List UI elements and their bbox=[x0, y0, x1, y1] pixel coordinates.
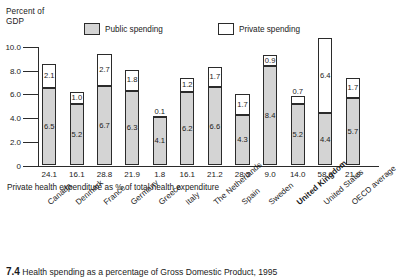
y-axis-spine bbox=[38, 47, 39, 166]
public-value-label: 6.5 bbox=[44, 123, 55, 131]
private-share-value: 28.8 bbox=[91, 170, 119, 179]
private-share-value: 16.1 bbox=[173, 170, 201, 179]
private-share-value: 21.2 bbox=[201, 170, 229, 179]
bar-group[interactable]: 2.16.5 bbox=[42, 64, 56, 166]
private-spending-segment[interactable]: 6.4 bbox=[318, 38, 332, 114]
public-spending-segment[interactable]: 4.3 bbox=[235, 115, 249, 166]
public-spending-segment[interactable]: 4.1 bbox=[153, 117, 167, 166]
x-axis-category-label: The Netherlands bbox=[212, 160, 264, 207]
public-value-label: 6.7 bbox=[99, 122, 110, 130]
private-share-value: 16.1 bbox=[63, 170, 91, 179]
private-share-value: 21.9 bbox=[118, 170, 146, 179]
public-value-label: 4.1 bbox=[154, 137, 165, 145]
private-value-label: 1.0 bbox=[72, 94, 83, 102]
bar-group[interactable]: 1.26.2 bbox=[180, 78, 194, 166]
private-spending-segment[interactable]: 0.7 bbox=[291, 96, 305, 104]
y-axis-tick-label: 0 bbox=[0, 161, 21, 170]
bar-group[interactable]: 0.75.2 bbox=[291, 96, 305, 166]
public-spending-segment[interactable]: 5.2 bbox=[291, 104, 305, 166]
private-spending-segment[interactable]: 1.7 bbox=[346, 78, 360, 98]
private-value-label: 1.7 bbox=[237, 101, 248, 109]
public-value-label: 5.7 bbox=[348, 128, 359, 136]
bar-group[interactable]: 2.76.7 bbox=[97, 54, 111, 165]
y-axis-tick-label: 2.0 bbox=[0, 137, 21, 146]
bar-group[interactable]: 0.14.1 bbox=[153, 116, 167, 166]
figure-number: 7.4 bbox=[6, 266, 20, 277]
private-spending-segment[interactable]: 1.2 bbox=[180, 78, 194, 92]
bar-group[interactable]: 1.74.3 bbox=[235, 94, 249, 165]
bar-group[interactable]: 1.75.7 bbox=[346, 78, 360, 166]
private-value-label: 0.9 bbox=[265, 57, 276, 65]
x-axis-category-label: Spain bbox=[240, 186, 262, 207]
public-spending-segment[interactable]: 6.6 bbox=[208, 87, 222, 165]
bar-group[interactable]: 6.44.4 bbox=[318, 38, 332, 166]
public-value-label: 6.6 bbox=[210, 123, 221, 131]
y-axis-tick-label: 4.0 bbox=[0, 114, 21, 123]
y-axis-tick-mark bbox=[23, 118, 39, 119]
x-axis-baseline bbox=[23, 166, 379, 167]
public-value-label: 6.3 bbox=[127, 124, 138, 132]
private-share-value: 58.9 bbox=[311, 170, 339, 179]
y-axis-tick-label: 8.0 bbox=[0, 66, 21, 75]
y-axis-tick-mark bbox=[23, 71, 39, 72]
private-value-label-outside: 0.7 bbox=[292, 87, 303, 96]
bar-group[interactable]: 1.86.3 bbox=[125, 70, 139, 166]
private-value-label: 1.2 bbox=[182, 81, 193, 89]
public-spending-segment[interactable]: 5.7 bbox=[346, 98, 360, 166]
x-axis-category-label: Italy bbox=[184, 190, 201, 207]
x-axis-category-label: Sweden bbox=[267, 181, 295, 207]
bar-group[interactable]: 0.98.4 bbox=[263, 55, 277, 165]
bar-group[interactable]: 1.76.6 bbox=[208, 67, 222, 165]
public-spending-segment[interactable]: 6.7 bbox=[97, 86, 111, 165]
public-value-label: 6.2 bbox=[182, 125, 193, 133]
private-share-value: 9.0 bbox=[256, 170, 284, 179]
private-value-label: 2.7 bbox=[99, 66, 110, 74]
public-value-label: 8.4 bbox=[265, 112, 276, 120]
y-axis-tick-mark bbox=[23, 142, 39, 143]
private-spending-segment[interactable]: 0.9 bbox=[263, 55, 277, 66]
private-spending-segment[interactable]: 1.0 bbox=[70, 92, 84, 104]
private-value-label: 1.7 bbox=[210, 73, 221, 81]
private-share-value: 21.9 bbox=[339, 170, 367, 179]
private-value-label: 1.7 bbox=[348, 84, 359, 92]
private-share-value: 24.1 bbox=[35, 170, 63, 179]
figure-caption: 7.4 Health spending as a percentage of G… bbox=[6, 266, 277, 277]
private-share-value: 28.5 bbox=[229, 170, 257, 179]
public-value-label: 5.2 bbox=[292, 131, 303, 139]
private-spending-segment[interactable]: 2.7 bbox=[97, 54, 111, 86]
public-spending-segment[interactable]: 4.4 bbox=[318, 113, 332, 165]
public-value-label: 4.4 bbox=[320, 136, 331, 144]
private-spending-segment[interactable]: 1.7 bbox=[208, 67, 222, 87]
y-axis-tick-label: 10.0 bbox=[0, 43, 21, 52]
private-value-label-outside: 0.1 bbox=[154, 107, 165, 116]
y-axis-tick-mark bbox=[23, 94, 39, 95]
public-spending-segment[interactable]: 6.2 bbox=[180, 92, 194, 165]
y-axis-tick-mark bbox=[23, 47, 39, 48]
bar-group[interactable]: 1.05.2 bbox=[70, 92, 84, 165]
public-value-label: 5.2 bbox=[72, 131, 83, 139]
private-share-row-label: Private health expenditure as % of total… bbox=[7, 183, 219, 192]
private-share-value: 14.0 bbox=[284, 170, 312, 179]
private-value-label: 2.1 bbox=[44, 72, 55, 80]
public-spending-segment[interactable]: 6.3 bbox=[125, 91, 139, 166]
private-share-value: 1.8 bbox=[146, 170, 174, 179]
private-value-label: 1.8 bbox=[127, 76, 138, 84]
figure-caption-text: Health spending as a percentage of Gross… bbox=[22, 267, 277, 277]
private-value-label: 6.4 bbox=[320, 72, 331, 80]
private-spending-segment[interactable]: 1.8 bbox=[125, 70, 139, 91]
public-spending-segment[interactable]: 6.5 bbox=[42, 88, 56, 165]
private-spending-segment[interactable]: 1.7 bbox=[235, 94, 249, 114]
public-spending-segment[interactable]: 8.4 bbox=[263, 66, 277, 166]
y-axis-tick-label: 6.0 bbox=[0, 90, 21, 99]
private-spending-segment[interactable]: 2.1 bbox=[42, 64, 56, 89]
public-spending-segment[interactable]: 5.2 bbox=[70, 104, 84, 166]
public-value-label: 4.3 bbox=[237, 136, 248, 144]
